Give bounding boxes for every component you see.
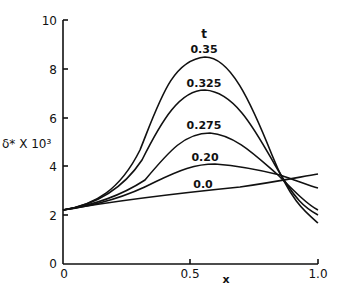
- xtick-1.0: 1.0: [308, 267, 327, 281]
- ytick-2: 2: [49, 209, 57, 223]
- curve-t-0.0: [63, 174, 318, 210]
- curve-label-0.325: 0.325: [187, 77, 222, 90]
- xtick-0: 0: [60, 267, 68, 281]
- ytick-0: 0: [49, 257, 57, 271]
- axes: [63, 20, 318, 264]
- ytick-8: 8: [49, 63, 57, 77]
- chart: 10 8 6 4 2 0 0 0.5 1.0 x δ* X 10³ t 0.35…: [0, 0, 340, 295]
- ytick-4: 4: [49, 160, 57, 174]
- curve-label-0.0: 0.0: [193, 178, 213, 191]
- xtick-0.5: 0.5: [180, 267, 199, 281]
- curve-label-0.35: 0.35: [190, 43, 217, 56]
- curve-label-0.20: 0.20: [191, 151, 218, 164]
- ytick-6: 6: [49, 112, 57, 126]
- y-axis-label: δ* X 10³: [2, 137, 51, 151]
- x-axis-label: x: [222, 273, 229, 286]
- ytick-10: 10: [42, 14, 57, 28]
- curve-label-0.275: 0.275: [187, 119, 222, 132]
- legend-title-t: t: [201, 27, 207, 41]
